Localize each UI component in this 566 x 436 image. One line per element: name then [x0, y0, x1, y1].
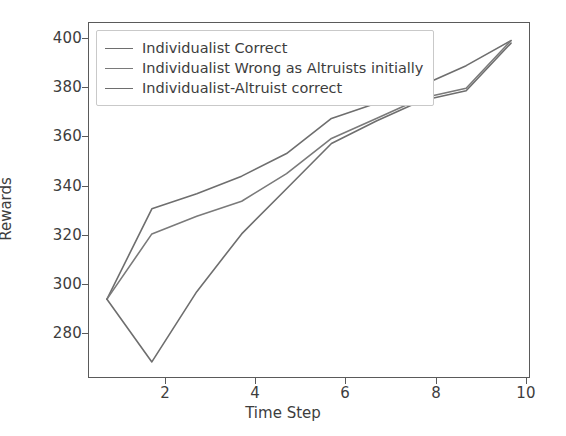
- y-axis-label: Rewards: [0, 177, 15, 241]
- chart-figure: 400 380 360 340 320 300 280 2 4 6 8 10 R…: [0, 0, 566, 436]
- legend-item-1[interactable]: Individualist Wrong as Altruists initial…: [105, 58, 423, 78]
- y-tick-label-400: 400: [22, 29, 82, 47]
- x-tick-label-8: 8: [416, 384, 456, 402]
- x-tick-label-4: 4: [235, 384, 275, 402]
- x-tick-label-10: 10: [506, 384, 546, 402]
- legend-item-0[interactable]: Individualist Correct: [105, 38, 423, 58]
- y-tick-label-320: 320: [22, 226, 82, 244]
- y-tick-label-300: 300: [22, 275, 82, 293]
- legend-swatch-icon-0: [105, 48, 133, 49]
- y-tick-label-280: 280: [22, 324, 82, 342]
- y-tick-label-340: 340: [22, 177, 82, 195]
- y-tick-label-380: 380: [22, 78, 82, 96]
- x-tick-label-2: 2: [145, 384, 185, 402]
- legend-label-1: Individualist Wrong as Altruists initial…: [142, 58, 423, 78]
- legend-swatch-icon-1: [105, 68, 133, 69]
- legend-label-0: Individualist Correct: [142, 38, 287, 58]
- y-tick-label-360: 360: [22, 127, 82, 145]
- x-tick-label-6: 6: [325, 384, 365, 402]
- legend-swatch-icon-2: [105, 88, 133, 89]
- legend-label-2: Individualist-Altruist correct: [142, 78, 342, 98]
- x-axis-label: Time Step: [0, 404, 566, 422]
- legend: Individualist Correct Individualist Wron…: [96, 30, 434, 106]
- legend-item-2[interactable]: Individualist-Altruist correct: [105, 78, 423, 98]
